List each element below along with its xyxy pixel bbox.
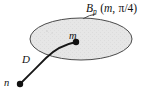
- ball-region-ellipse: [30, 18, 132, 60]
- geometry-figure: Bp (m, π/4) m D n: [0, 0, 154, 94]
- interior-speck: [46, 30, 47, 31]
- point-n-dot: [17, 81, 23, 87]
- ball-label-subscript: p: [93, 7, 97, 16]
- curve-D-label: D: [22, 54, 30, 65]
- point-m-label: m: [69, 31, 77, 42]
- ball-label: Bp (m, π/4): [86, 3, 137, 15]
- point-n-label: n: [4, 78, 9, 89]
- ball-label-close-paren: ): [133, 2, 137, 14]
- interior-speck: [52, 33, 53, 34]
- ball-label-base: B: [86, 2, 93, 14]
